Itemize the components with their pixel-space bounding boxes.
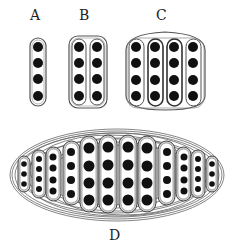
grouping-diagram: A B C D: [0, 0, 230, 247]
label-b: B: [79, 7, 89, 23]
label-c: C: [156, 7, 167, 23]
label-d: D: [109, 227, 120, 243]
panel-c: [126, 32, 205, 110]
panel-b: [69, 36, 107, 108]
panel-d: [10, 129, 224, 221]
label-a: A: [29, 7, 41, 23]
panel-a: [30, 38, 46, 106]
